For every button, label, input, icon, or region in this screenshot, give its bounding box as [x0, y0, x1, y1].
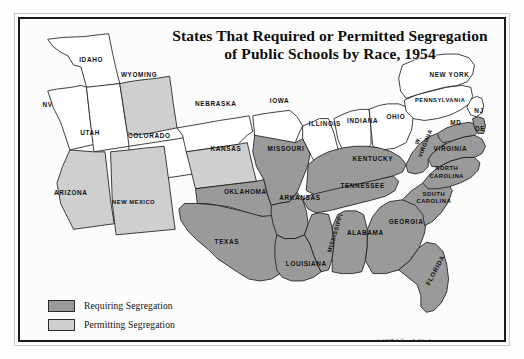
state-shapes: [48, 34, 486, 313]
state-shape-az[interactable]: [57, 150, 114, 229]
legend-label-permitting: Permitting Segregation: [84, 319, 175, 330]
legend-swatch-permitting: [48, 319, 75, 331]
state-shape-al[interactable]: [332, 211, 367, 274]
map-page: IDAHONVUTAHWYOMINGCOLORADONEBRASKAIOWAIL…: [0, 0, 524, 359]
legend-item-requiring: Requiring Segregation: [48, 296, 175, 315]
state-shape-id[interactable]: [48, 34, 120, 88]
map-credit: © 1997 Jeffrey L. Ward: [376, 338, 430, 342]
map-frame: IDAHONVUTAHWYOMINGCOLORADONEBRASKAIOWAIL…: [18, 17, 506, 342]
legend-label-requiring: Requiring Segregation: [84, 300, 173, 311]
legend-swatch-requiring: [48, 300, 75, 312]
state-shape-nm[interactable]: [111, 146, 176, 235]
legend-item-permitting: Permitting Segregation: [48, 315, 175, 334]
state-shape-wy[interactable]: [120, 76, 177, 135]
map-canvas: IDAHONVUTAHWYOMINGCOLORADONEBRASKAIOWAIL…: [20, 19, 504, 340]
map-legend: Requiring Segregation Permitting Segrega…: [48, 296, 175, 334]
us-map-svg: [20, 19, 504, 340]
